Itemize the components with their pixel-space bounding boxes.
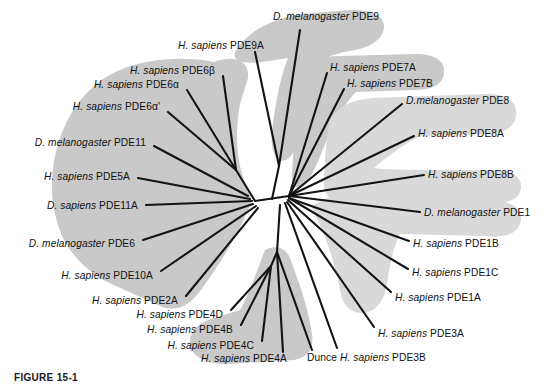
leaf-label-hs-pde7b: H. sapiens PDE7B: [347, 78, 433, 89]
leaf-label-hs-pde9a: H. sapiens PDE9A: [178, 40, 264, 51]
leaf-label-hs-pde4c: H. sapiens PDE4C: [167, 340, 254, 351]
leaf-label-dm-pde9: D. melanogaster PDE9: [273, 11, 379, 22]
leaf-gene-hs-pde1b: PDE1B: [465, 238, 499, 249]
leaf-label-hs-pde2a: H. sapiens PDE2A: [92, 295, 178, 306]
leaf-label-hs-pde1a: H. sapiens PDE1A: [395, 292, 481, 303]
leaf-label-hs-pde5a: H. sapiens PDE5A: [44, 171, 130, 182]
leaf-genus-hs-pde4b: H. sapiens: [147, 324, 196, 335]
leaf-genus-hs-pde1a: H. sapiens: [395, 292, 444, 303]
leaf-gene-hs-pde9a: PDE9A: [230, 40, 264, 51]
leaf-gene-hs-pde3a: PDE3A: [430, 328, 464, 339]
leaf-gene-dm-pde1: PDE1: [503, 207, 530, 218]
leaf-genus-dm-pde9: D. melanogaster: [273, 11, 349, 22]
leaf-genus-hs-pde3b: H. sapiens: [340, 352, 389, 363]
leaf-gene-hs-pde8a: PDE8A: [470, 128, 504, 139]
leaf-genus-hs-pde8b: H. sapiens: [428, 169, 477, 180]
leaf-gene-hs-pde10a: PDE10A: [113, 270, 153, 281]
leaf-label-hs-pde1b: H. sapiens PDE1B: [413, 238, 499, 249]
leaf-label-hs-pde4b: H. sapiens PDE4B: [147, 324, 233, 335]
leaf-label-hs-pde6b: H. sapiens PDE6β: [130, 65, 215, 76]
leaf-label-hs-pde3a: H. sapiens PDE3A: [378, 328, 464, 339]
leaf-genus-hs-pde4d: H. sapiens: [136, 309, 185, 320]
leaf-gene-hs-pde7a: PDE7A: [382, 62, 416, 73]
leaf-gene-hs-pde4c: PDE4C: [220, 340, 254, 351]
leaf-label-hs-pde4a: H. sapiens PDE4A: [201, 353, 287, 364]
leaf-label-dm-pde11: D. melanogaster PDE11: [35, 137, 146, 148]
leaf-genus-hs-pde9a: H. sapiens: [178, 40, 227, 51]
branch-pde9-stem: [272, 166, 279, 199]
leaf-gene-hs-pde4d: PDE4D: [189, 309, 223, 320]
leaf-label-dm-pde6: D. melanogaster PDE6: [29, 238, 135, 249]
leaf-gene-hs-pde5a: PDE5A: [96, 171, 130, 182]
leaf-gene-ds-pde11a: PDE11A: [99, 200, 138, 211]
leaf-label-hs-pde4d: H. sapiens PDE4D: [136, 309, 223, 320]
leaf-genus-hs-pde2a: H. sapiens: [92, 295, 141, 306]
leaf-gene-hs-pde8b: PDE8B: [480, 169, 514, 180]
leaf-gene-dunce: Dunce: [307, 352, 337, 363]
leaf-genus-ds-pde11a: D. sapiens: [47, 200, 96, 211]
leaf-genus-dm-pde1: D. melanogaster: [424, 207, 500, 218]
leaf-label-hs-pde8a: H. sapiens PDE8A: [418, 128, 504, 139]
leaf-gene-hs-pde4a: PDE4A: [253, 353, 287, 364]
leaf-label-hs-pde1c: H. sapiens PDE1C: [412, 267, 499, 278]
leaf-label-dm-pde8: D.melanogaster PDE8: [406, 95, 509, 106]
leaf-genus-hs-pde5a: H. sapiens: [44, 171, 93, 182]
figure-caption: FIGURE 15-1: [14, 372, 78, 383]
leaf-gene-hs-pde1c: PDE1C: [464, 267, 498, 278]
leaf-genus-hs-pde7b: H. sapiens: [347, 78, 396, 89]
leaf-genus-hs-pde7a: H. sapiens: [330, 62, 379, 73]
leaf-gene-hs-pde2a: PDE2A: [144, 295, 178, 306]
leaf-genus-dm-pde6: D. melanogaster: [29, 238, 105, 249]
leaf-genus-hs-pde3a: H. sapiens: [378, 328, 427, 339]
leaf-gene-hs-pde6b: PDE6β: [182, 65, 215, 76]
tree-canvas: [0, 0, 551, 385]
leaf-genus-dm-pde8: D.melanogaster: [406, 95, 479, 106]
leaf-label-dm-pde1: D. melanogaster PDE1: [424, 207, 530, 218]
leaf-gene-dm-pde11: PDE11: [114, 137, 146, 148]
leaf-label-hs-pde6a: H. sapiens PDE6α: [94, 79, 179, 90]
leaf-label-hs-pde7a: H. sapiens PDE7A: [330, 62, 416, 73]
leaf-label-hs-pde6a-prime: H. sapiens PDE6α': [73, 101, 160, 112]
leaf-label-dunce: Dunce: [307, 352, 337, 363]
leaf-gene-dm-pde8: PDE8: [482, 95, 509, 106]
leaf-gene-dm-pde9: PDE9: [352, 11, 379, 22]
leaf-genus-hs-pde6a: H. sapiens: [94, 79, 143, 90]
leaf-genus-hs-pde4a: H. sapiens: [201, 353, 250, 364]
clade-shading-group: [52, 10, 521, 364]
leaf-genus-hs-pde1c: H. sapiens: [412, 267, 461, 278]
leaf-gene-hs-pde4b: PDE4B: [199, 324, 233, 335]
leaf-genus-hs-pde6a-prime: H. sapiens: [73, 101, 122, 112]
leaf-genus-hs-pde4c: H. sapiens: [167, 340, 216, 351]
leaf-gene-hs-pde7b: PDE7B: [399, 78, 433, 89]
leaf-gene-hs-pde6a: PDE6α: [146, 79, 179, 90]
clade-blob-pde8: [324, 94, 521, 206]
leaf-genus-hs-pde6b: H. sapiens: [130, 65, 179, 76]
leaf-gene-hs-pde3b: PDE3B: [392, 352, 426, 363]
leaf-label-hs-pde10a: H. sapiens PDE10A: [61, 270, 153, 281]
leaf-genus-hs-pde8a: H. sapiens: [418, 128, 467, 139]
phylogenetic-tree-figure: D. melanogaster PDE9 H. sapiens PDE9A H.…: [0, 0, 551, 385]
leaf-gene-dm-pde6: PDE6: [108, 238, 135, 249]
branch-pde4-stem: [277, 205, 280, 252]
leaf-gene-hs-pde6a-prime: PDE6α': [125, 101, 160, 112]
leaf-label-hs-pde8b: H. sapiens PDE8B: [428, 169, 514, 180]
leaf-label-hs-pde3b: H. sapiens PDE3B: [340, 352, 426, 363]
leaf-genus-dm-pde11: D. melanogaster: [35, 137, 111, 148]
leaf-genus-hs-pde10a: H. sapiens: [61, 270, 110, 281]
leaf-genus-hs-pde1b: H. sapiens: [413, 238, 462, 249]
leaf-label-ds-pde11a: D. sapiens PDE11A: [47, 200, 138, 211]
leaf-gene-hs-pde1a: PDE1A: [447, 292, 481, 303]
